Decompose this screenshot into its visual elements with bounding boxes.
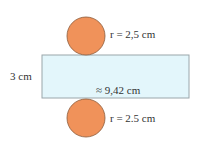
top-base-circle <box>67 17 105 55</box>
bottom-base-circle <box>67 99 105 137</box>
cylinder-net-diagram: r = 2,5 cm 3 cm ≈ 9,42 cm r = 2.5 cm <box>0 0 199 152</box>
top-radius-label: r = 2,5 cm <box>110 28 156 40</box>
height-label: 3 cm <box>10 70 32 82</box>
width-label: ≈ 9,42 cm <box>96 84 141 96</box>
bottom-radius-label: r = 2.5 cm <box>110 112 156 124</box>
